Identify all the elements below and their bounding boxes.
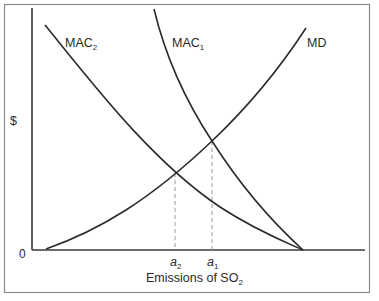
md-curve (46, 28, 306, 249)
origin-label: 0 (19, 247, 26, 261)
md-label: MD (307, 36, 326, 50)
x-axis-label: Emissions of SO2 (146, 271, 243, 287)
mac1-label: MAC1 (172, 36, 205, 52)
a2-tick-label: a2 (170, 255, 182, 271)
mac2-label: MAC2 (65, 36, 98, 52)
chart-canvas: MAC2 MAC1 MD $ 0 a2 a1 Emissions of SO2 (0, 0, 379, 301)
mac2-curve (45, 25, 303, 250)
a1-tick-label: a1 (207, 255, 219, 271)
y-axis-label: $ (10, 114, 17, 128)
